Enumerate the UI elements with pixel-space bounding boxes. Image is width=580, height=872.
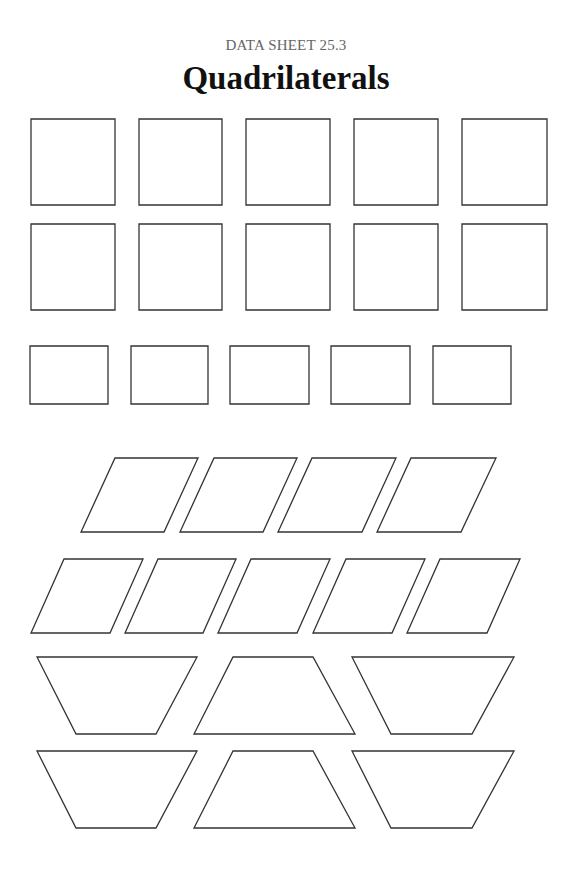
trapezoid-shape [352, 751, 514, 828]
trapezoid-shape [37, 657, 197, 734]
square-shape [139, 119, 222, 205]
trapezoid-shape [194, 657, 355, 734]
parallelogram-shape [180, 458, 297, 532]
trapezoid-shape [194, 751, 355, 828]
square-shape [354, 224, 438, 310]
trapezoids-row-1 [37, 657, 514, 734]
rectangles-row [30, 346, 511, 404]
parallelogram-shape [81, 458, 198, 532]
square-shape [462, 119, 547, 205]
parallelograms-row-1 [81, 458, 496, 532]
squares-row-1 [31, 119, 547, 205]
square-shape [31, 224, 115, 310]
square-shape [246, 119, 330, 205]
parallelogram-shape [407, 559, 520, 633]
parallelograms-row-2 [31, 559, 520, 633]
trapezoid-shape [352, 657, 514, 734]
shapes-canvas [0, 0, 580, 872]
parallelogram-shape [125, 559, 236, 633]
square-shape [31, 119, 115, 205]
parallelogram-shape [218, 559, 330, 633]
rectangle-shape [433, 346, 511, 404]
parallelogram-shape [278, 458, 396, 532]
parallelogram-shape [377, 458, 496, 532]
parallelogram-shape [31, 559, 143, 633]
square-shape [246, 224, 330, 310]
square-shape [354, 119, 438, 205]
square-shape [139, 224, 222, 310]
rectangle-shape [30, 346, 108, 404]
square-shape [462, 224, 547, 310]
squares-row-2 [31, 224, 547, 310]
rectangle-shape [131, 346, 208, 404]
trapezoid-shape [37, 751, 197, 828]
rectangle-shape [230, 346, 309, 404]
trapezoids-row-2 [37, 751, 514, 828]
rectangle-shape [331, 346, 410, 404]
parallelogram-shape [313, 559, 425, 633]
